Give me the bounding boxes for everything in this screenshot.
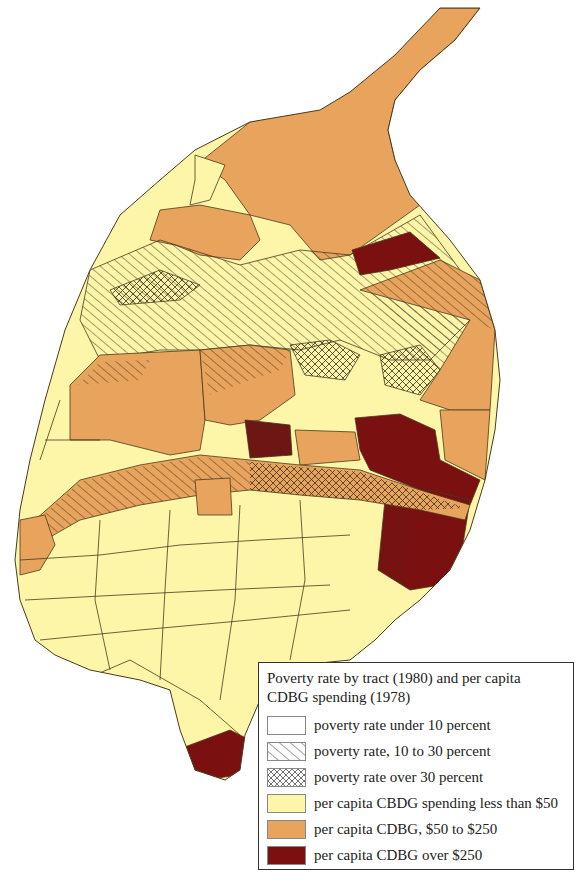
tract-central-cross xyxy=(245,420,292,458)
legend-item-spending-under-50: per capita CBDG spending less than $50 xyxy=(267,790,565,816)
legend-item-poverty-10-30: poverty rate, 10 to 30 percent xyxy=(267,738,565,764)
legend-item-spending-50-250: per capita CDBG, $50 to $250 xyxy=(267,816,565,842)
tract-south-mid-spending xyxy=(195,478,232,515)
legend-title: Poverty rate by tract (1980) and per cap… xyxy=(267,669,565,707)
legend-item-spending-over-250: per capita CDBG over $250 xyxy=(267,842,565,868)
low-spending-swatch-icon xyxy=(267,794,306,813)
cross-hatch-swatch-icon xyxy=(267,768,306,787)
legend-item-poverty-under-10: poverty rate under 10 percent xyxy=(267,712,565,738)
high-spending-swatch-icon xyxy=(267,846,306,865)
tract-central-mid-spending-2 xyxy=(295,430,360,465)
single-hatch-swatch-icon xyxy=(267,742,306,761)
legend-item-poverty-over-30: poverty rate over 30 percent xyxy=(267,764,565,790)
blank-swatch-icon xyxy=(267,716,306,735)
mid-spending-swatch-icon xyxy=(267,820,306,839)
map-legend: Poverty rate by tract (1980) and per cap… xyxy=(258,662,574,870)
